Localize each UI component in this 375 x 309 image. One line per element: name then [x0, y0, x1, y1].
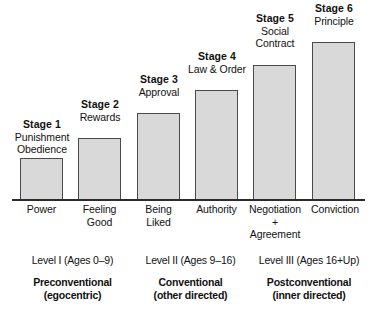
level-ages-label: Level I (Ages 0–9)	[10, 254, 135, 267]
category-line-2: Liked	[121, 216, 196, 229]
stage-descriptor-label-line2: Obedience	[2, 143, 82, 156]
stage-annotation-3: Stage 3 Approval	[120, 73, 198, 98]
stage-number-label: Stage 2	[61, 98, 139, 111]
stage-annotation-4: Stage 4 Law & Order	[177, 50, 257, 75]
level-name-label: Preconventional	[10, 276, 135, 289]
bar-stage-2	[78, 138, 121, 200]
level-ages-label: Level III (Ages 16+Up)	[245, 254, 373, 267]
bar-stage-6	[312, 42, 355, 200]
bar-stage-1	[20, 158, 63, 200]
stage-descriptor-label: Rewards	[61, 111, 139, 124]
stage-descriptor-label: Punishment	[2, 131, 82, 144]
stage-annotation-6: Stage 6 Principle	[295, 2, 373, 27]
level-ages-label: Level II (Ages 9–16)	[128, 254, 253, 267]
level-sub-label: (inner directed)	[245, 289, 373, 302]
category-line-2: +	[236, 216, 314, 229]
level-block-1: Level I (Ages 0–9) Preconventional (egoc…	[10, 254, 135, 302]
kohlberg-stages-bar-chart: Stage 1 Punishment Obedience Stage 2 Rew…	[0, 0, 375, 309]
stage-descriptor-label: Approval	[120, 86, 198, 99]
stage-annotation-1: Stage 1 Punishment Obedience	[2, 118, 82, 156]
level-sub-label: (other directed)	[128, 289, 253, 302]
x-axis-line	[12, 199, 365, 201]
stage-annotation-2: Stage 2 Rewards	[61, 98, 139, 123]
level-sub-label: (egocentric)	[10, 289, 135, 302]
category-label-conviction: Conviction	[296, 203, 374, 216]
bar-stage-3	[137, 113, 180, 200]
level-block-2: Level II (Ages 9–16) Conventional (other…	[128, 254, 253, 302]
bar-stage-5	[253, 65, 296, 200]
stage-number-label: Stage 4	[177, 50, 257, 63]
bar-stage-4	[195, 90, 238, 200]
level-name-label: Postconventional	[245, 276, 373, 289]
stage-number-label: Stage 6	[295, 2, 373, 15]
level-block-3: Level III (Ages 16+Up) Postconventional …	[245, 254, 373, 302]
stage-descriptor-label-line2: Contract	[236, 37, 314, 50]
stage-descriptor-label: Principle	[295, 15, 373, 28]
stage-descriptor-label: Law & Order	[177, 63, 257, 76]
category-line: Conviction	[296, 203, 374, 216]
category-line-3: Agreement	[236, 228, 314, 241]
level-name-label: Conventional	[128, 276, 253, 289]
